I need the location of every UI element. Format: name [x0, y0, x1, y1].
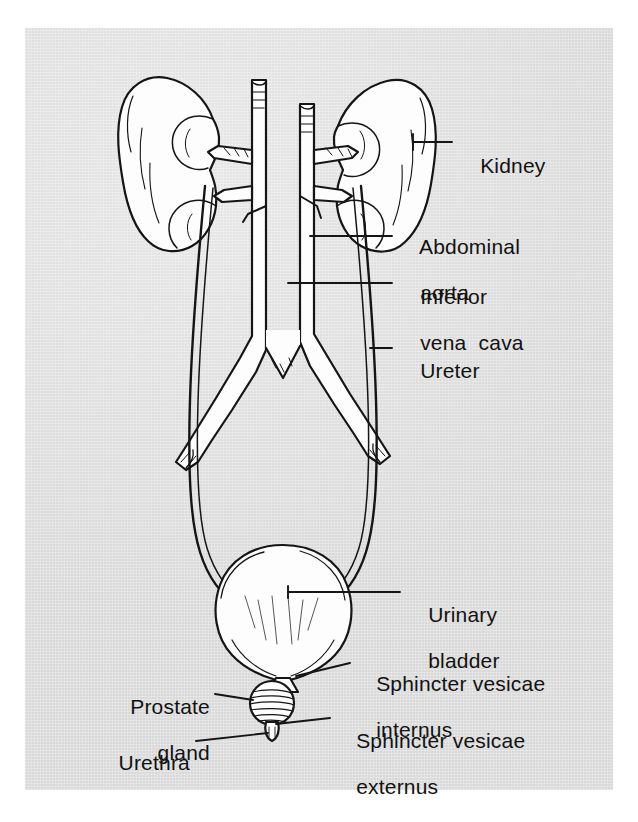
- left-kidney-shape: [118, 77, 219, 251]
- label-prostate-gland-line1: Prostate: [130, 695, 210, 718]
- label-ureter-line1: Ureter: [420, 359, 480, 382]
- vessel-bifurcation: [266, 330, 300, 380]
- leader-prostate: [215, 694, 253, 700]
- label-urethra: Urethra: [42, 728, 190, 797]
- label-urinary-bladder-line1: Urinary: [428, 603, 497, 626]
- label-sphincter-externus-line2: externus: [356, 775, 438, 798]
- label-kidney-line1: Kidney: [480, 154, 545, 177]
- label-urethra-line1: Urethra: [119, 751, 190, 774]
- figure-page: Kidney Abdominal aorta Inferior vena cav…: [0, 0, 638, 822]
- prostate-gland-shape: [250, 681, 294, 725]
- label-sphincter-vesicae-externus: Sphincter vesicae externus: [332, 706, 525, 821]
- label-ureter: Ureter: [396, 336, 480, 405]
- label-sphincter-internus-line1: Sphincter vesicae: [376, 672, 545, 695]
- label-abdominal-aorta-line1: Abdominal: [419, 235, 520, 258]
- label-sphincter-externus-line1: Sphincter vesicae: [356, 729, 525, 752]
- label-inferior-vena-cava-line1: Inferior: [420, 285, 487, 308]
- label-kidney: Kidney: [456, 131, 546, 200]
- urinary-bladder-shape: [216, 545, 352, 682]
